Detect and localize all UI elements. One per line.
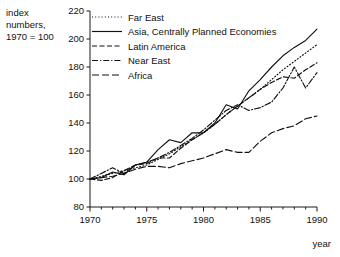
x-tick-label: 1970: [79, 214, 100, 225]
y-caption-line-2: 1970 = 100: [6, 31, 54, 42]
chart-figure: 80100120140160180200220 1970197519801985…: [0, 0, 340, 257]
y-axis-caption: indexnumbers,1970 = 100: [6, 7, 54, 42]
legend: Far EastAsia, Centrally Planned Economie…: [92, 12, 277, 81]
y-tick-label: 80: [73, 201, 84, 212]
x-tick-labels: 19701975198019851990: [79, 214, 327, 225]
y-tick-labels: 80100120140160180200220: [68, 5, 84, 212]
x-tick-label: 1980: [193, 214, 214, 225]
y-tick-label: 160: [68, 89, 84, 100]
line-chart-canvas: 80100120140160180200220 1970197519801985…: [0, 0, 340, 257]
data-series-group: [90, 29, 317, 180]
y-caption-line-1: numbers,: [6, 19, 46, 30]
x-tick-label: 1975: [136, 214, 157, 225]
y-tick-label: 120: [68, 145, 84, 156]
legend-label-0: Far East: [128, 12, 164, 23]
series-line-1: [90, 29, 317, 179]
series-line-0: [90, 45, 317, 179]
axis-group: [87, 11, 318, 212]
legend-label-1: Asia, Centrally Planned Economies: [128, 26, 277, 37]
x-tick-label: 1985: [250, 214, 271, 225]
legend-label-2: Latin America: [128, 41, 186, 52]
x-tick-label: 1990: [306, 214, 327, 225]
legend-label-4: Africa: [128, 70, 153, 81]
series-line-2: [90, 63, 317, 181]
y-caption-line-0: index: [6, 7, 29, 18]
series-line-3: [90, 67, 317, 179]
series-line-4: [90, 116, 317, 179]
plot-area: 80100120140160180200220 1970197519801985…: [68, 5, 327, 225]
legend-label-3: Near East: [128, 55, 171, 66]
y-tick-label: 220: [68, 5, 84, 16]
x-axis-caption: year: [313, 238, 331, 249]
axis-lines: [90, 11, 317, 207]
y-tick-label: 200: [68, 33, 84, 44]
y-tick-label: 140: [68, 117, 84, 128]
y-tick-label: 180: [68, 61, 84, 72]
y-tick-label: 100: [68, 173, 84, 184]
